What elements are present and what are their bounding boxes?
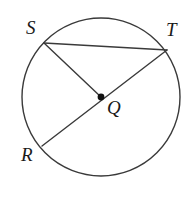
- geometry-figure: S T Q R: [0, 0, 196, 203]
- point-label-t: T: [166, 20, 177, 39]
- point-label-q: Q: [107, 98, 121, 117]
- point-label-r: R: [21, 145, 33, 164]
- point-label-s: S: [26, 18, 36, 37]
- center-point-marker: [98, 94, 105, 101]
